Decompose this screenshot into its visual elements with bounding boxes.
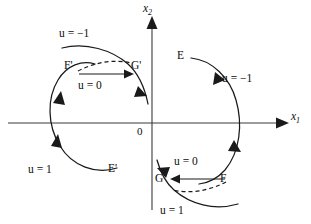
label-u-minus-one-right: u = −1 [222, 73, 252, 85]
label-u-one-lower-right: u = 1 [160, 205, 184, 217]
phase-plane-figure: x2 x1 0 u = −1 u = 0 u = 1 u = −1 u = 0 … [0, 0, 311, 224]
right-arc-arrowhead-lower [228, 140, 241, 152]
left-arc-arrowhead-lower [51, 134, 62, 148]
left-u0-segment [79, 70, 134, 79]
label-point-G-prime: G' [131, 60, 141, 72]
right-u0-arrowhead [170, 175, 180, 184]
phase-plane-svg [0, 0, 311, 224]
label-u-zero-lower: u = 0 [174, 156, 198, 168]
label-point-G: G [155, 173, 163, 185]
left-incoming-curve [62, 46, 148, 104]
label-point-E: E [177, 50, 184, 62]
origin-label: 0 [137, 126, 143, 137]
x1-axis-label: x1 [291, 111, 300, 125]
right-u0-segment [170, 175, 225, 184]
label-point-E-prime: E' [108, 163, 117, 175]
x1-axis-label-sub: 1 [296, 116, 300, 125]
x2-axis-arrowhead [147, 16, 158, 29]
left-arc-arrowhead-upper [53, 91, 65, 105]
label-u-zero-upper: u = 0 [78, 80, 102, 92]
label-u-minus-one-upper-left: u = −1 [59, 28, 89, 40]
label-point-F: F [220, 173, 226, 185]
x2-axis-label: x2 [143, 3, 152, 17]
x2-axis-label-sub: 2 [148, 8, 152, 17]
label-point-F-prime: F' [64, 60, 72, 72]
x1-axis-arrowhead [276, 118, 289, 129]
label-u-one-lower-left: u = 1 [28, 164, 52, 176]
